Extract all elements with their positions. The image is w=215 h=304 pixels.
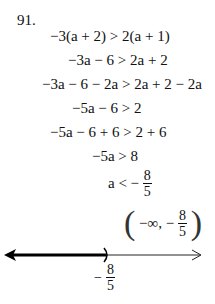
point-fraction: 8 5	[106, 262, 115, 293]
step-4: −5a − 6 > 2	[72, 100, 142, 117]
numerator: 8	[106, 262, 115, 278]
point-label: − 8 5	[94, 262, 115, 293]
numerator: 8	[143, 168, 152, 184]
numerator: 8	[178, 208, 187, 224]
point-sign: −	[94, 270, 102, 285]
step-3: −3a − 6 − 2a > 2a + 2 − 2a	[42, 76, 202, 93]
step-2: −3a − 6 > 2a + 2	[68, 52, 168, 69]
solution: a < − 8 5	[108, 168, 152, 199]
interval-text: −∞, −	[139, 215, 174, 231]
solution-lhs: a < −	[108, 175, 139, 191]
interval-notation: ( −∞, − 8 5 )	[124, 204, 202, 242]
denominator: 5	[143, 184, 152, 199]
interval-fraction: 8 5	[178, 208, 187, 239]
denominator: 5	[106, 278, 115, 293]
step-1: −3(a + 2) > 2(a + 1)	[50, 28, 170, 45]
step-5: −5a − 6 + 6 > 2 + 6	[50, 124, 166, 141]
solution-fraction: 8 5	[143, 168, 152, 199]
problem-number: 91.	[17, 12, 36, 29]
close-paren: )	[191, 204, 202, 241]
open-paren: (	[124, 204, 135, 241]
step-6: −5a > 8	[92, 148, 138, 165]
denominator: 5	[178, 224, 187, 239]
